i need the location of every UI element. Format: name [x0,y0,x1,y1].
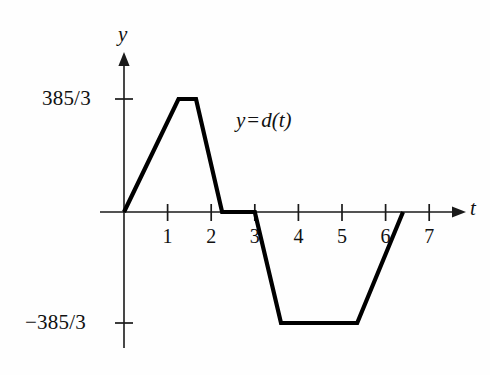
y-axis-label: y [118,24,127,45]
x-tick-label-6: 6 [376,226,396,246]
curve-annotation-equals: = [245,108,261,132]
curve-annotation-y: y [236,108,245,132]
graph-figure: y t 385/3 −385/3 1 2 3 4 5 6 7 y=d(t) [0,0,490,375]
x-tick-label-3: 3 [245,226,265,246]
curve-d-of-t [124,99,403,323]
x-axis-label: t [470,198,476,219]
x-tick-label-1: 1 [158,226,178,246]
y-tick-label-negative: −385/3 [25,312,86,333]
y-tick-label-positive: 385/3 [42,88,91,109]
y-axis-arrowhead [118,52,129,66]
x-tick-label-5: 5 [332,226,352,246]
x-tick-label-4: 4 [288,226,308,246]
x-axis-arrowhead [452,206,466,217]
curve-annotation: y=d(t) [236,110,292,131]
curve-annotation-fn: d(t) [261,108,291,132]
x-axis [100,204,466,221]
x-tick-label-7: 7 [419,226,439,246]
x-tick-label-2: 2 [201,226,221,246]
